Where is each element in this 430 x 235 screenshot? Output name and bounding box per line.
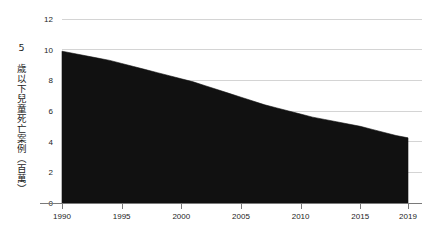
plot-area (0, 0, 430, 235)
series-area-under5-deaths (62, 51, 408, 203)
x-axis-tick-marks (63, 204, 409, 209)
area-chart: 5 歲以下兒童死亡案例（百萬） 024681012 19901995200020… (0, 0, 430, 235)
area-fill (62, 51, 408, 203)
